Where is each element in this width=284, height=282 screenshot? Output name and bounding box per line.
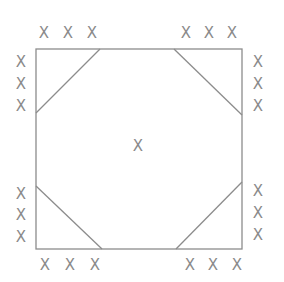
corner-cut-top-right (174, 49, 242, 115)
corner-cut-bottom-left (36, 186, 102, 249)
mark-x-top-left-top: X (37, 26, 51, 41)
center-mark: X (131, 139, 145, 154)
mark-x-right-bottom: X (251, 206, 265, 221)
mark-x-left-bottom: X (14, 230, 28, 245)
mark-x-bottom-left: X (63, 258, 77, 273)
mark-x-left-top: X (14, 55, 28, 70)
corner-cut-bottom-right (176, 182, 242, 249)
mark-x-left-bottom: X (14, 208, 28, 223)
mark-x-left-top: X (14, 77, 28, 92)
corner-cut-top-left (36, 49, 100, 113)
mark-x-bottom-right: X (183, 258, 197, 273)
mark-x-top-right-top: X (202, 26, 216, 41)
mark-x-right-top: X (251, 77, 265, 92)
mark-x-bottom-left: X (38, 258, 52, 273)
mark-x-bottom-right: X (206, 258, 220, 273)
mark-x-top-left-top: X (61, 26, 75, 41)
mark-x-top-left-top: X (85, 26, 99, 41)
mark-x-bottom-left: X (88, 258, 102, 273)
mark-x-right-top: X (251, 99, 265, 114)
mark-x-left-bottom: X (14, 187, 28, 202)
mark-x-bottom-right: X (230, 258, 244, 273)
mark-x-top-right-top: X (179, 26, 193, 41)
mark-x-right-top: X (251, 55, 265, 70)
mark-x-right-bottom: X (251, 184, 265, 199)
mark-x-left-top: X (14, 99, 28, 114)
mark-x-top-right-top: X (225, 26, 239, 41)
mark-x-right-bottom: X (251, 228, 265, 243)
